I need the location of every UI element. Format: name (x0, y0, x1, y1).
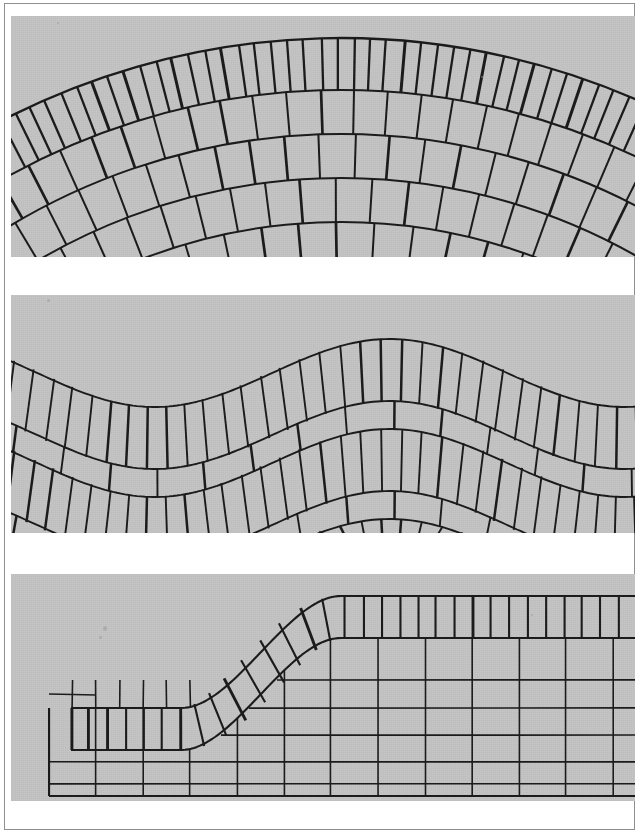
panel-wave (11, 295, 635, 533)
panel-ramp (11, 574, 635, 801)
panel-arch (11, 16, 635, 257)
plate-outer-frame (4, 3, 635, 830)
figure-page (0, 0, 641, 838)
arch-voussoir-drawing (11, 16, 635, 257)
ramp-s-curve-drawing (11, 574, 635, 801)
wave-course-drawing (11, 295, 635, 533)
